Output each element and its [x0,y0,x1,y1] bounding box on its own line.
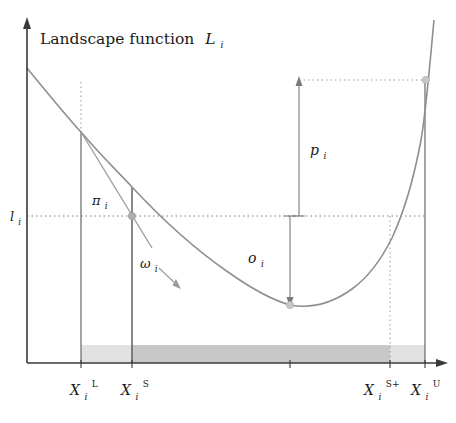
xtick-label-xsplus-base: X [363,382,375,398]
annotation-omega-base: ω [140,256,151,271]
annotation-pi-sub: i [105,201,108,211]
chart-title: Landscape function L i [40,30,223,50]
annotation-o-base: o [248,250,256,266]
ytick-label-li-sub: i [18,217,21,227]
marker-xs-li [128,212,135,219]
xtick-label-xu-sub: i [425,392,428,402]
annotation-o-sub: i [261,259,264,269]
annotation-p-base: p [310,142,319,158]
xtick-label-xl-sub: i [84,392,87,402]
annotation-p-sub: i [323,151,326,161]
annotation-pi-base: π [91,193,101,208]
xtick-label-xl-sup: L [92,379,98,389]
xtick-label-xs-sup: S [143,379,149,389]
xtick-label-xu-base: X [410,382,422,398]
xtick-label-xsplus-sub: i [378,392,381,402]
xtick-label-xsplus-sup: S+ [386,379,400,389]
marker-xu-top [422,76,429,83]
interval-band-dark [132,345,390,363]
landscape-function-chart: Landscape function L i l i X i L X i S X… [0,0,456,423]
xtick-label-xs-sub: i [135,392,138,402]
xtick-label-xu-sup: U [433,379,441,389]
ytick-label-li-base: l [10,209,14,224]
marker-minimum [286,301,293,308]
chart-title-symbol-sub: i [220,40,223,50]
chart-title-symbol: L [204,30,215,48]
xtick-label-xs-base: X [120,382,132,398]
annotation-omega-sub: i [155,264,158,274]
xtick-label-xl-base: X [69,382,81,398]
landscape-figure-root: Landscape function L i l i X i L X i S X… [0,0,456,423]
chart-title-text: Landscape function [40,30,194,48]
